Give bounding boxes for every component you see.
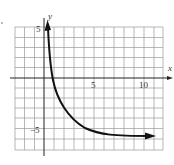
tick-label-5: 5 bbox=[91, 80, 96, 90]
tick-label-10: 10 bbox=[139, 80, 149, 90]
x-axis-label: x bbox=[167, 63, 172, 73]
y-axis-label: y bbox=[47, 11, 52, 21]
x-axis-arrow-icon bbox=[167, 76, 173, 80]
tick-label-y-minus5: −5 bbox=[30, 125, 40, 135]
tick-label-y5: 5 bbox=[36, 24, 41, 34]
curve-top-arrow-icon bbox=[45, 20, 52, 31]
curve-right-arrow-icon bbox=[145, 133, 156, 140]
graph: x y 5 10 5 −5 bbox=[0, 0, 174, 165]
curve-line bbox=[48, 28, 150, 136]
marker-dot bbox=[1, 22, 3, 24]
